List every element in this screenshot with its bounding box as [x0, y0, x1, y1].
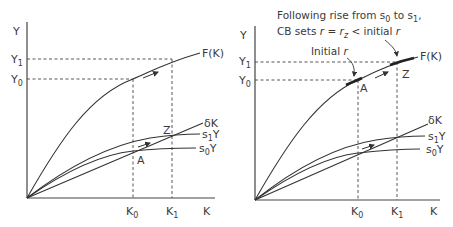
right-fk-label: F(K) — [420, 50, 442, 63]
right-depreciation-line — [255, 124, 428, 200]
right-initial-r-label: Initial r — [311, 45, 348, 57]
right-y1-label: Y1 — [238, 55, 251, 70]
left-point-a: A — [137, 154, 145, 167]
solow-diagram: Y K Y1 Y0 K0 K1 F(K) δK s1Y s0Y A Z Y — [0, 0, 453, 227]
left-s1y-curve — [27, 134, 200, 198]
right-s0y-label: s0Y — [426, 143, 444, 158]
left-point-z: Z — [163, 124, 171, 137]
right-rz-segment — [390, 58, 414, 65]
right-y-axis-label: Y — [239, 29, 247, 42]
right-annotation-line1: Following rise from s0 to s1, — [277, 9, 421, 24]
right-rz-pointer-arrow — [385, 40, 397, 56]
left-k0-label: K0 — [126, 205, 138, 220]
right-point-z: Z — [402, 68, 410, 81]
right-dk-label: δK — [428, 114, 443, 127]
left-fk-label: F(K) — [202, 47, 224, 60]
right-point-a: A — [360, 82, 368, 95]
right-k0-label: K0 — [351, 205, 363, 220]
right-k1-label: K1 — [391, 205, 403, 220]
right-y0-label: Y0 — [238, 74, 251, 89]
left-x-axis-label: K — [203, 205, 211, 218]
left-k1-label: K1 — [166, 205, 178, 220]
left-y0-label: Y0 — [10, 73, 23, 88]
right-initial-r-pointer-arrow — [347, 58, 354, 76]
right-panel: Y K Y1 Y0 K0 K1 F(K) δK s1Y s0Y A Z Foll… — [238, 9, 446, 220]
left-production-curve — [27, 53, 200, 198]
right-s1y-curve — [255, 136, 425, 200]
left-panel: Y K Y1 Y0 K0 K1 F(K) δK s1Y s0Y A Z — [10, 22, 224, 220]
right-annotation-line2: CB sets r = rz < initial r — [277, 25, 401, 40]
left-y-axis-label: Y — [12, 25, 20, 38]
left-s1y-label: s1Y — [202, 128, 220, 143]
left-y1-label: Y1 — [10, 53, 23, 68]
left-fk-arrow — [143, 72, 158, 78]
left-depreciation-line — [27, 123, 203, 198]
right-production-curve — [255, 57, 418, 200]
right-fk-arrow — [375, 72, 388, 78]
right-s0y-curve — [255, 149, 420, 200]
right-x-axis-label: K — [430, 205, 438, 218]
left-s0y-label: s0Y — [199, 142, 217, 157]
